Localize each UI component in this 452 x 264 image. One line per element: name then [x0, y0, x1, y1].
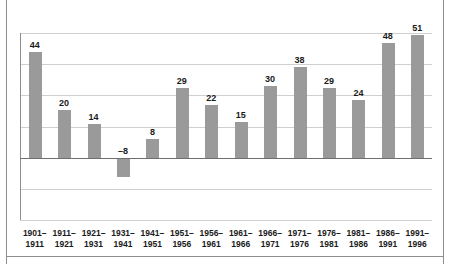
bar-slot: 48: [373, 33, 402, 220]
x-axis-tick-label-line: 1991: [373, 239, 402, 250]
bar[interactable]: [235, 122, 248, 158]
bar-slot: 44: [20, 33, 49, 220]
bar-slot: 24: [344, 33, 373, 220]
x-axis-tick-label-line: 1941–: [138, 228, 167, 239]
bar-slot: 29: [314, 33, 343, 220]
x-axis-tick-label-line: 1931: [79, 239, 108, 250]
bar-value-label: –8: [118, 146, 128, 156]
x-axis-tick-label-line: 1921: [49, 239, 78, 250]
bar-slot: 15: [226, 33, 255, 220]
bar-value-label: 30: [265, 74, 275, 84]
bar-slot: 14: [79, 33, 108, 220]
x-axis-tick-label-line: 1986–: [373, 228, 402, 239]
bars-group: 442014–88292215303829244851: [20, 33, 432, 220]
bar-value-label: 29: [324, 76, 334, 86]
x-axis-tick-label: 1931–1941: [108, 228, 137, 250]
bar[interactable]: [29, 52, 42, 158]
bar[interactable]: [88, 124, 101, 158]
x-axis-tick-label-line: 1951: [138, 239, 167, 250]
bar[interactable]: [264, 86, 277, 158]
x-axis-tick-label: 1986–1991: [373, 228, 402, 250]
bar[interactable]: [176, 88, 189, 158]
x-axis-tick-label-line: 1971: [255, 239, 284, 250]
bar[interactable]: [205, 105, 218, 158]
x-axis-tick-label: 1921–1931: [79, 228, 108, 250]
plot-area: 442014–88292215303829244851: [20, 33, 432, 220]
x-axis-tick-label-line: 1961–: [226, 228, 255, 239]
x-axis-tick-label: 1971–1976: [285, 228, 314, 250]
bar-slot: 30: [255, 33, 284, 220]
bar[interactable]: [411, 35, 424, 157]
x-axis-tick-label-line: 1951–: [167, 228, 196, 239]
bar-value-label: 44: [30, 40, 40, 50]
bar-value-label: 29: [177, 76, 187, 86]
x-axis-tick-label: 1911–1921: [49, 228, 78, 250]
zero-baseline: [20, 158, 432, 159]
x-axis-tick-label-line: 1976–: [314, 228, 343, 239]
x-axis-tick-label: 1941–1951: [138, 228, 167, 250]
bar-chart-figure: 442014–88292215303829244851 1901–1911191…: [0, 0, 452, 264]
bar-value-label: 24: [353, 88, 363, 98]
bar[interactable]: [146, 139, 159, 158]
page-border-left: [6, 0, 7, 264]
x-axis-tick-label: 1956–1961: [197, 228, 226, 250]
x-axis-tick-label-line: 1971–: [285, 228, 314, 239]
x-axis-tick-label-line: 1956–: [197, 228, 226, 239]
x-axis-tick-label: 1991–1996: [403, 228, 432, 250]
x-axis-tick-label-line: 1976: [285, 239, 314, 250]
bar-value-label: 51: [412, 23, 422, 33]
x-axis-tick-label: 1951–1956: [167, 228, 196, 250]
bar[interactable]: [117, 158, 130, 177]
x-axis-tick-label-line: 1911: [20, 239, 49, 250]
bar-value-label: 20: [59, 98, 69, 108]
x-axis-tick-label-line: 1986: [344, 239, 373, 250]
bar-slot: 29: [167, 33, 196, 220]
x-axis-tick-label-line: 1966: [226, 239, 255, 250]
bar[interactable]: [294, 67, 307, 158]
x-axis-tick-label-line: 1941: [108, 239, 137, 250]
x-axis-tick-label-line: 1931–: [108, 228, 137, 239]
x-axis-tick-label-line: 1996: [403, 239, 432, 250]
x-axis-tick-label-line: 1911–: [49, 228, 78, 239]
bar-slot: 22: [197, 33, 226, 220]
x-axis-tick-label-line: 1981–: [344, 228, 373, 239]
x-axis-labels: 1901–19111911–19211921–19311931–19411941…: [20, 228, 432, 256]
x-axis-tick-label: 1976–1981: [314, 228, 343, 250]
bar[interactable]: [382, 43, 395, 158]
x-axis-tick-label: 1966–1971: [255, 228, 284, 250]
bar-slot: –8: [108, 33, 137, 220]
bar-slot: 20: [49, 33, 78, 220]
bar-slot: 8: [138, 33, 167, 220]
bar-value-label: 8: [150, 127, 155, 137]
bar-value-label: 48: [383, 31, 393, 41]
bar-value-label: 38: [295, 55, 305, 65]
x-axis-tick-label-line: 1901–: [20, 228, 49, 239]
x-axis-tick-label: 1901–1911: [20, 228, 49, 250]
bar[interactable]: [323, 88, 336, 158]
gridline: [20, 220, 432, 221]
x-axis-tick-label-line: 1961: [197, 239, 226, 250]
bar-value-label: 14: [89, 112, 99, 122]
page-border-bottom: [6, 256, 444, 257]
bar-value-label: 15: [236, 110, 246, 120]
bar[interactable]: [352, 100, 365, 158]
x-axis-tick-label: 1981–1986: [344, 228, 373, 250]
x-axis-tick-label-line: 1956: [167, 239, 196, 250]
x-axis-tick-label-line: 1991–: [403, 228, 432, 239]
bar-value-label: 22: [206, 93, 216, 103]
page-border-right: [443, 0, 444, 264]
x-axis-tick-label-line: 1981: [314, 239, 343, 250]
x-axis-tick-label-line: 1921–: [79, 228, 108, 239]
x-axis-tick-label: 1961–1966: [226, 228, 255, 250]
bar[interactable]: [58, 110, 71, 158]
x-axis-tick-label-line: 1966–: [255, 228, 284, 239]
bar-slot: 38: [285, 33, 314, 220]
bar-slot: 51: [403, 33, 432, 220]
